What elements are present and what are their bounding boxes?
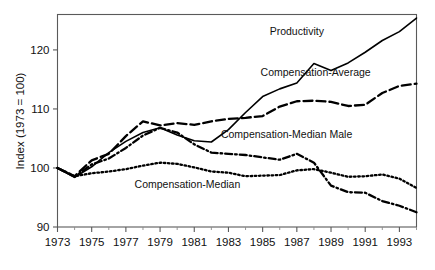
y-tick-label: 100 bbox=[30, 162, 49, 174]
x-axis-tick-labels: 1973197519771979198119831985198719891991… bbox=[45, 236, 412, 248]
x-tick-label: 1979 bbox=[147, 236, 173, 248]
y-tick-label: 90 bbox=[37, 221, 50, 233]
y-tick-label: 120 bbox=[30, 44, 49, 56]
x-tick-label: 1977 bbox=[113, 236, 139, 248]
y-tick-label: 110 bbox=[31, 103, 49, 115]
x-tick-label: 1983 bbox=[216, 236, 242, 248]
line-chart-canvas: 90100110120 1973197519771979198119831985… bbox=[0, 0, 435, 270]
series-label-compensation-median-male: Compensation-Median Male bbox=[221, 128, 352, 140]
y-axis-tick-labels: 90100110120 bbox=[30, 44, 49, 233]
x-tick-label: 1993 bbox=[387, 236, 413, 248]
x-tick-label: 1991 bbox=[352, 236, 378, 248]
series-label-compensation-median: Compensation-Median bbox=[135, 178, 241, 190]
series-label-compensation-average: Compensation-Average bbox=[261, 66, 371, 78]
x-tick-label: 1981 bbox=[181, 236, 207, 248]
x-tick-label: 1973 bbox=[45, 236, 71, 248]
series-labels-group: ProductivityCompensation-AverageCompensa… bbox=[135, 25, 371, 190]
x-tick-label: 1985 bbox=[250, 236, 276, 248]
y-axis-title: Index (1973 = 100) bbox=[14, 72, 26, 169]
x-tick-label: 1987 bbox=[284, 236, 310, 248]
x-tick-label: 1975 bbox=[79, 236, 105, 248]
x-tick-label: 1989 bbox=[318, 236, 344, 248]
y-axis-ticks bbox=[53, 50, 58, 227]
series-label-productivity: Productivity bbox=[270, 25, 325, 37]
chart-figure: 90100110120 1973197519771979198119831985… bbox=[0, 0, 435, 270]
